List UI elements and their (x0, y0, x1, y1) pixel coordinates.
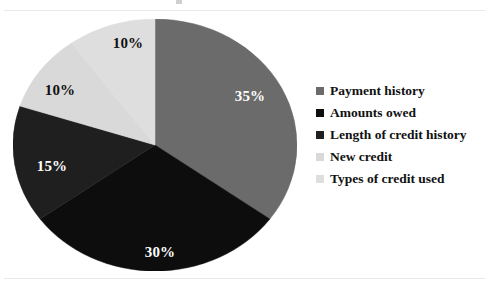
top-divider-rule (4, 10, 485, 11)
legend-item-label: Payment history (330, 84, 425, 98)
legend-color-swatch-icon (316, 153, 324, 161)
pie-graphic (13, 19, 297, 271)
legend-item-label: Types of credit used (330, 172, 445, 186)
cropped-title-fragment (176, 0, 182, 4)
legend-item[interactable]: Payment history (316, 80, 486, 102)
legend-item-label: Length of credit history (330, 128, 467, 142)
chart-legend: Payment historyAmounts owedLength of cre… (316, 80, 486, 190)
pie-svg (13, 19, 297, 271)
legend-color-swatch-icon (316, 131, 324, 139)
pie-slice-value-label: 15% (37, 158, 68, 175)
legend-item[interactable]: New credit (316, 146, 486, 168)
legend-item[interactable]: Types of credit used (316, 168, 486, 190)
pie-slices (13, 19, 297, 271)
legend-item[interactable]: Length of credit history (316, 124, 486, 146)
pie-slice-value-label: 35% (235, 88, 266, 105)
legend-item-label: New credit (330, 150, 392, 164)
legend-color-swatch-icon (316, 87, 324, 95)
legend-color-swatch-icon (316, 109, 324, 117)
legend-item-label: Amounts owed (330, 106, 416, 120)
bottom-divider-rule (4, 278, 485, 279)
pie-chart-figure: 35%30%15%10%10% Payment historyAmounts o… (0, 0, 489, 287)
legend-item[interactable]: Amounts owed (316, 102, 486, 124)
pie-slice-value-label: 10% (113, 35, 144, 52)
pie-slice-value-label: 30% (145, 244, 176, 261)
pie-slice-value-label: 10% (45, 82, 76, 99)
legend-color-swatch-icon (316, 175, 324, 183)
